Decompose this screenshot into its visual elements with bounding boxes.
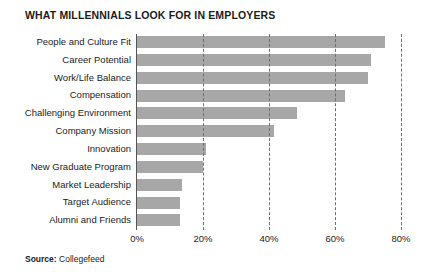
x-axis-tick-label: 0% [130,233,144,244]
bar [137,72,368,84]
chart-container: WHAT MILLENNIALS LOOK FOR IN EMPLOYERS P… [0,0,428,272]
source-value: Collegefeed [59,254,104,264]
x-axis-tick-label: 20% [193,233,212,244]
bar [137,90,345,102]
category-label: Innovation [0,141,131,157]
category-label: New Graduate Program [0,159,131,175]
gridline-20pct [203,34,204,230]
category-label: Challenging Environment [0,105,131,121]
bar [137,54,371,66]
bar [137,214,180,226]
bar [137,143,206,155]
plot-area: People and Culture FitCareer PotentialWo… [137,34,401,230]
category-label: Career Potential [0,52,131,68]
x-axis-tick-label: 80% [391,233,410,244]
category-label: Compensation [0,87,131,103]
bar [137,197,180,209]
bar [137,161,203,173]
chart-title: WHAT MILLENNIALS LOOK FOR IN EMPLOYERS [25,9,276,21]
category-label: People and Culture Fit [0,34,131,50]
category-label: Target Audience [0,194,131,210]
category-label: Company Mission [0,123,131,139]
category-label: Alumni and Friends [0,212,131,228]
gridline-80pct [401,34,402,230]
bar [137,179,182,191]
gridline-60pct [335,34,336,230]
x-axis-tick-label: 60% [325,233,344,244]
source-note: Source: Collegefeed [25,254,104,264]
category-label: Market Leadership [0,177,131,193]
source-label: Source: [25,254,57,264]
bar [137,125,274,137]
x-axis-tick-label: 40% [259,233,278,244]
bar [137,36,385,48]
bar [137,107,297,119]
gridline-40pct [269,34,270,230]
category-label: Work/Life Balance [0,70,131,86]
